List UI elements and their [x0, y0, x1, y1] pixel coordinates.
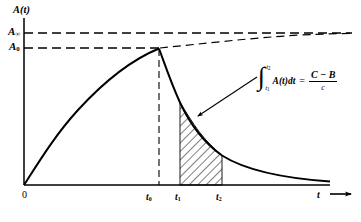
x-axis-label: t: [317, 190, 320, 200]
integral-sign: ∫: [258, 67, 265, 87]
x-tick-label-t0: t0: [146, 193, 152, 203]
integral-limits: t2 t1: [266, 65, 270, 91]
annotation-arrow: [198, 77, 257, 116]
rise-curve: [24, 49, 159, 186]
asymptotic-dashed-curve: [160, 33, 352, 48]
figure-canvas: [0, 0, 361, 222]
integral-upper-limit: t2: [266, 63, 270, 71]
x-tick-label-t2: t2: [216, 193, 222, 203]
figure-container: A(t) A∞ A0 0 t0 t1 t2 t ∫ t2 t1 A(t)dt =…: [0, 0, 361, 222]
integral-lower-limit: t1: [265, 84, 270, 92]
y-tick-label-a-zero: A0: [9, 41, 20, 53]
result-fraction: C − B c: [309, 69, 337, 92]
fraction-denominator: c: [321, 82, 325, 92]
integrand-expression: A(t)dt: [273, 76, 296, 86]
equals-sign: =: [299, 75, 305, 86]
x-tick-label-t1: t1: [175, 193, 181, 203]
y-tick-label-a-infinity: A∞: [8, 26, 20, 38]
fraction-numerator: C − B: [309, 69, 337, 81]
integral-annotation: ∫ t2 t1 A(t)dt = C − B c: [258, 63, 337, 92]
y-axis-label: A(t): [13, 5, 30, 16]
origin-label: 0: [22, 190, 27, 200]
